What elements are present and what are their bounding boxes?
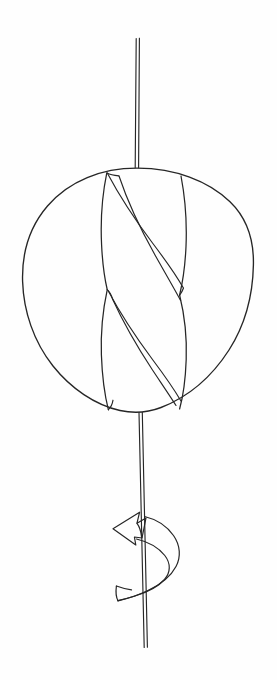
diagram-canvas [0, 0, 277, 680]
figure-root [0, 0, 277, 680]
